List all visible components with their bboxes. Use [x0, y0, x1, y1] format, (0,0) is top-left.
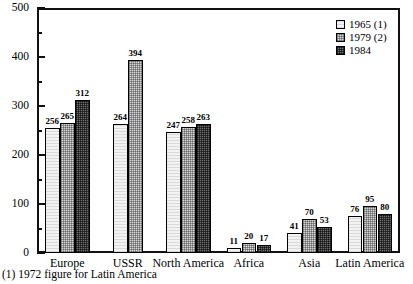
bar-value-label: 17 — [253, 234, 276, 243]
x-tick-label-latin-america: Latin America — [335, 256, 404, 270]
legend-label: 1984 — [349, 45, 371, 56]
y-tick-label: 100 — [12, 198, 29, 210]
legend-swatch-icon — [336, 33, 345, 42]
bar — [166, 132, 181, 253]
y-tick-label: 0 — [23, 247, 29, 259]
legend-label: 1965 (1) — [349, 19, 387, 30]
y-tick-label: 400 — [12, 51, 29, 63]
bar — [45, 128, 60, 253]
bar-value-label: 53 — [313, 216, 336, 225]
y-tick-label: 500 — [12, 2, 29, 14]
bar — [227, 248, 242, 253]
bar — [317, 227, 332, 253]
legend: 1965 (1)1979 (2)1984 — [336, 18, 406, 57]
bar — [181, 127, 196, 253]
legend-swatch-icon — [336, 20, 345, 29]
y-tick-label: 200 — [12, 149, 29, 161]
bar-value-label: 263 — [192, 113, 215, 122]
bar — [287, 233, 302, 253]
x-tick-label-north-america: North America — [152, 256, 224, 270]
legend-item: 1965 (1) — [336, 18, 406, 30]
bar — [378, 214, 393, 253]
bar-value-label: 312 — [71, 89, 94, 98]
y-axis: 0100200300400500 — [0, 0, 33, 284]
bar — [75, 100, 90, 253]
bar-chart: 0100200300400500 25626531226439424725826… — [0, 0, 413, 284]
legend-swatch-icon — [336, 46, 345, 55]
bar — [242, 243, 257, 253]
y-tick-label: 300 — [12, 100, 29, 112]
bar — [128, 60, 143, 253]
bar — [348, 216, 363, 253]
bar-value-label: 80 — [374, 203, 397, 212]
x-tick-label-asia: Asia — [298, 256, 320, 270]
chart-footnote: (1) 1972 figure for Latin America — [2, 268, 157, 281]
bar — [257, 245, 272, 253]
legend-item: 1979 (2) — [336, 31, 406, 43]
legend-label: 1979 (2) — [349, 32, 387, 43]
bar — [196, 124, 211, 253]
bar — [363, 206, 378, 253]
bar-value-label: 394 — [124, 49, 147, 58]
bar — [113, 124, 128, 253]
bar — [60, 123, 75, 253]
x-tick-label-africa: Africa — [233, 256, 264, 270]
legend-item: 1984 — [336, 44, 406, 56]
